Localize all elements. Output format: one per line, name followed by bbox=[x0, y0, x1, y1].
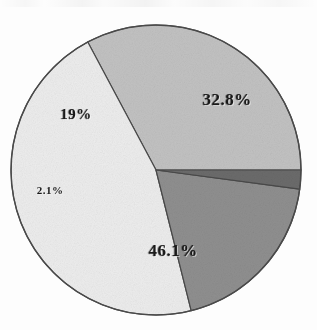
pie-chart: 32.8% 46.1% 19% 2.1% bbox=[0, 0, 317, 330]
pie-slices bbox=[11, 25, 301, 315]
pie-chart-svg bbox=[0, 0, 317, 330]
